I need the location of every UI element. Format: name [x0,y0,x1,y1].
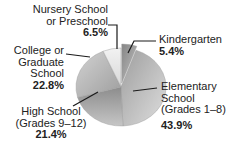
label-elementary: Elementary School (Grades 1–8) 43.9% [161,81,233,131]
label-college: College or Graduate School 22.8% [6,45,64,91]
label-elementary-pct: 43.9% [161,120,233,132]
label-kindergarten-line1: Kindergarten [159,34,233,46]
leader-line-nursery [108,25,117,49]
label-nursery: Nursery School or Preschool 6.5% [20,4,108,39]
label-college-line1: College or [6,45,64,57]
leader-line-college [66,54,90,57]
label-nursery-line1: Nursery School [20,4,108,16]
label-high-school-line1: High School [8,106,94,118]
label-kindergarten: Kindergarten 5.4% [159,34,233,57]
label-high-school: High School (Grades 9–12) 21.4% [8,106,94,141]
label-college-pct: 22.8% [6,80,64,92]
label-elementary-line3: (Grades 1–8) [161,104,233,116]
label-nursery-pct: 6.5% [20,27,108,39]
label-elementary-line1: Elementary [161,81,233,93]
label-high-school-pct: 21.4% [8,129,94,141]
label-college-line3: School [6,68,64,80]
label-kindergarten-pct: 5.4% [159,46,233,58]
figure-pie-chart: Nursery School or Preschool 6.5% Kinderg… [0,0,234,152]
